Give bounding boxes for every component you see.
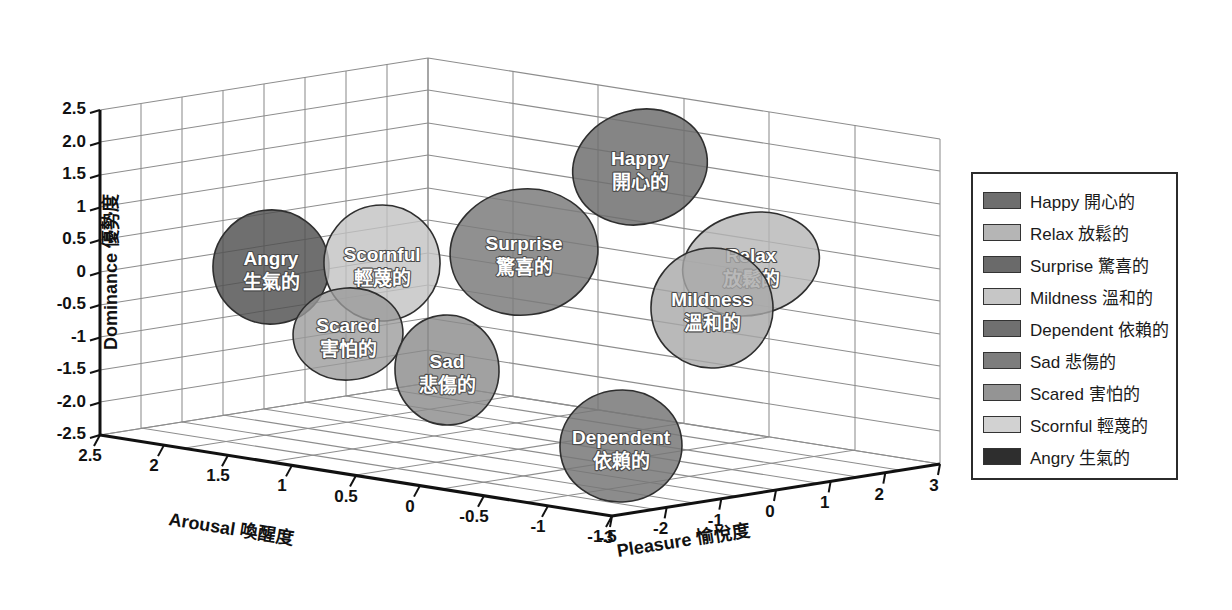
y-axis-title: Arousal 喚醒度 (167, 508, 296, 549)
bubble-group: Angry生氣的Scornful輕蔑的Scared害怕的Sad悲傷的Surpri… (206, 93, 829, 507)
legend-item[interactable]: Happy 開心的 (983, 184, 1168, 216)
legend-swatch (983, 288, 1021, 305)
y-tick-label: 1 (277, 476, 286, 495)
legend-item[interactable]: Scared 害怕的 (983, 376, 1168, 408)
bubble-label-zh: 依賴的 (593, 450, 650, 472)
y-tick (222, 455, 228, 466)
x-tick-label: -3 (598, 528, 613, 547)
bubble-label-en: Scared (316, 315, 379, 336)
legend-item[interactable]: Relax 放鬆的 (983, 216, 1168, 248)
legend-label: Angry 生氣的 (1030, 444, 1130, 469)
bubble-label-en: Happy (611, 148, 670, 169)
legend-label: Relax 放鬆的 (1030, 220, 1129, 245)
bubble-label-en: Angry (244, 248, 299, 269)
y-tick-label: 2.5 (78, 446, 102, 465)
z-tick-label: 0 (77, 262, 86, 281)
legend-item[interactable]: Mildness 溫和的 (983, 280, 1168, 312)
bubble-label-zh: 害怕的 (320, 338, 377, 360)
legend-label: Mildness 溫和的 (1030, 284, 1153, 309)
x-tick-label: 3 (929, 476, 938, 495)
y-tick (350, 476, 356, 487)
z-tick-label: 0.5 (62, 229, 86, 248)
z-tick-label: 2.0 (62, 132, 86, 151)
bubble-dependent[interactable]: Dependent依賴的 (555, 385, 686, 507)
legend-list: Happy 開心的Relax 放鬆的Surprise 驚喜的Mildness 溫… (973, 174, 1176, 482)
legend-label: Happy 開心的 (1030, 188, 1135, 213)
legend-label: Scornful 輕蔑的 (1030, 412, 1148, 437)
x-tick-label: 0 (765, 502, 774, 521)
bubble-label-en: Surprise (485, 233, 562, 254)
z-axis-title: Dominance 優勢度 (100, 193, 121, 350)
z-tick-label: -1.5 (57, 359, 86, 378)
x-axis-title: Pleasure 愉悅度 (615, 519, 752, 561)
bubble-label-zh: 悲傷的 (419, 374, 476, 396)
z-tick-label: 2.5 (62, 99, 86, 118)
y-tick (542, 506, 548, 517)
legend-item[interactable]: Dependent 依賴的 (983, 312, 1168, 344)
legend-swatch (983, 448, 1021, 465)
legend-swatch (983, 256, 1021, 273)
legend-label: Scared 害怕的 (1030, 380, 1140, 405)
bubble-label-zh: 生氣的 (243, 271, 300, 293)
z-tick-label: 1.5 (62, 164, 86, 183)
bubble-label-en: Sad (430, 351, 465, 372)
bubble-label-zh: 開心的 (612, 171, 669, 193)
legend-swatch (983, 224, 1021, 241)
legend-swatch (983, 192, 1021, 209)
z-tick-label: -2.0 (57, 392, 86, 411)
legend-label: Surprise 驚喜的 (1030, 252, 1149, 277)
y-tick (478, 496, 484, 507)
z-axis-tick-labels: 2.52.01.510.50-0.5-1-1.5-2.0-2.5 (57, 99, 86, 443)
x-tick-label: 2 (875, 485, 884, 504)
y-tick-label: 1.5 (206, 466, 230, 485)
bubble-label-en: Dependent (572, 427, 671, 448)
legend-swatch (983, 416, 1021, 433)
z-tick-label: -0.5 (57, 294, 86, 313)
legend-item[interactable]: Surprise 驚喜的 (983, 248, 1168, 280)
bubble-label-en: Mildness (671, 289, 752, 310)
bubble-sad[interactable]: Sad悲傷的 (391, 312, 502, 429)
bubble-label-en: Scornful (343, 244, 420, 265)
y-tick-label: 2 (149, 456, 158, 475)
y-tick (414, 486, 420, 497)
z-tick-label: -1 (71, 327, 86, 346)
legend-label: Sad 悲傷的 (1030, 348, 1116, 373)
bubble-label-zh: 驚喜的 (495, 256, 553, 278)
y-tick-label: 0.5 (334, 487, 358, 506)
x-tick-label: 1 (820, 493, 829, 512)
legend-swatch (983, 320, 1021, 337)
legend-item[interactable]: Scornful 輕蔑的 (983, 408, 1168, 440)
bubble-label-zh: 輕蔑的 (354, 267, 411, 289)
y-tick-label: 0 (405, 497, 414, 516)
bubble-surprise[interactable]: Surprise驚喜的 (443, 180, 605, 323)
z-tick-label: 1 (77, 197, 86, 216)
y-tick (286, 465, 292, 476)
legend-label: Dependent 依賴的 (1030, 316, 1169, 341)
y-tick (158, 445, 164, 456)
z-tick-label: -2.5 (57, 424, 86, 443)
y-tick-label: -0.5 (459, 507, 488, 526)
legend-item[interactable]: Sad 悲傷的 (983, 344, 1168, 376)
legend-swatch (983, 352, 1021, 369)
y-tick-label: -1 (530, 517, 545, 536)
chart-canvas: Angry生氣的Scornful輕蔑的Scared害怕的Sad悲傷的Surpri… (0, 0, 1232, 610)
legend-swatch (983, 384, 1021, 401)
legend: Happy 開心的Relax 放鬆的Surprise 驚喜的Mildness 溫… (971, 172, 1178, 480)
legend-item[interactable]: Angry 生氣的 (983, 440, 1168, 472)
bubble-label-zh: 溫和的 (684, 312, 741, 334)
